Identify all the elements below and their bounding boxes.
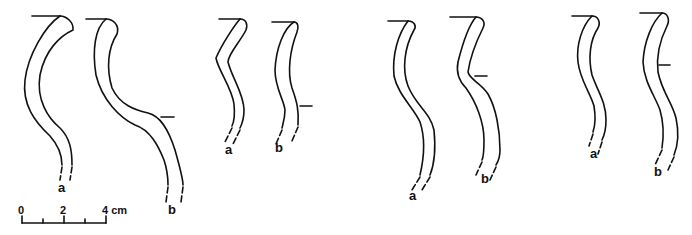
scale-bar — [22, 216, 106, 223]
profile-4a — [572, 16, 606, 154]
label-3a: a — [409, 189, 416, 202]
profile-4b — [640, 13, 678, 170]
profile-1b — [86, 19, 183, 202]
profile-2a — [216, 19, 247, 144]
label-3b: b — [481, 172, 489, 185]
label-2a: a — [225, 143, 232, 156]
scale-label-0: 0 — [18, 205, 24, 216]
label-4a: a — [590, 147, 597, 160]
label-4b: b — [654, 165, 662, 178]
profile-3a — [388, 21, 435, 190]
profile-drawing — [0, 0, 692, 235]
label-1a: a — [58, 181, 65, 194]
label-1b: b — [168, 203, 176, 216]
scale-label-4cm: 4 cm — [102, 205, 127, 216]
label-2b: b — [275, 141, 283, 154]
scale-label-2: 2 — [60, 205, 66, 216]
profile-2b — [272, 22, 312, 144]
profile-1a — [25, 16, 74, 180]
profile-3b — [450, 17, 500, 180]
